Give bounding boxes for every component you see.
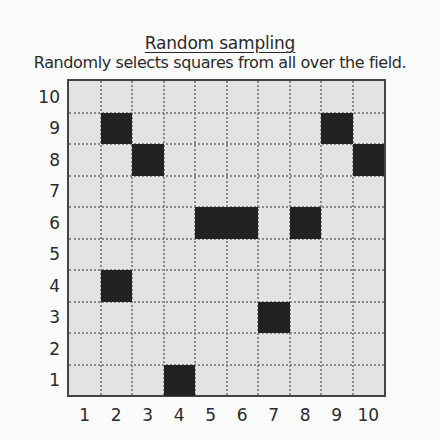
selected-square — [321, 113, 353, 145]
x-axis-label: 4 — [163, 405, 195, 425]
y-axis-label: 2 — [30, 339, 60, 359]
diagram-title: Random sampling — [0, 33, 440, 53]
x-axis-label: 10 — [352, 405, 384, 425]
x-axis-label: 1 — [69, 405, 101, 425]
grid-line-horizontal — [69, 175, 384, 177]
selected-square — [101, 270, 133, 302]
x-axis-label: 3 — [132, 405, 164, 425]
diagram-subtitle: Randomly selects squares from all over t… — [0, 53, 440, 72]
grid-line-horizontal — [69, 332, 384, 334]
selected-square — [290, 207, 322, 239]
selected-square — [195, 207, 227, 239]
x-axis-label: 8 — [289, 405, 321, 425]
y-axis-label: 5 — [30, 244, 60, 264]
x-axis-label: 6 — [226, 405, 258, 425]
grid-line-horizontal — [69, 364, 384, 366]
y-axis-label: 1 — [30, 370, 60, 390]
y-axis-label: 8 — [30, 150, 60, 170]
selected-square — [227, 207, 259, 239]
y-axis-label: 7 — [30, 181, 60, 201]
selected-square — [164, 365, 196, 397]
sampling-grid — [67, 79, 386, 397]
selected-square — [258, 302, 290, 334]
x-axis-label: 5 — [195, 405, 227, 425]
x-axis-label: 7 — [258, 405, 290, 425]
y-axis-label: 3 — [30, 307, 60, 327]
y-axis-label: 6 — [30, 213, 60, 233]
selected-square — [101, 113, 133, 145]
x-axis-label: 9 — [321, 405, 353, 425]
y-axis-label: 4 — [30, 276, 60, 296]
x-axis-label: 2 — [100, 405, 132, 425]
selected-square — [353, 144, 385, 176]
y-axis-label: 10 — [30, 87, 60, 107]
y-axis-label: 9 — [30, 118, 60, 138]
selected-square — [132, 144, 164, 176]
